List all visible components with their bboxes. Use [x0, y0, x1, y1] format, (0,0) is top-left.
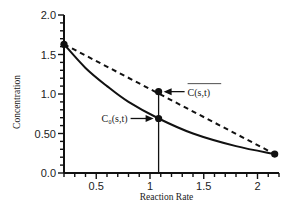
plot-series [60, 41, 278, 173]
y-tick-label: 1.5 [41, 49, 56, 61]
arrow-head-icon [164, 88, 172, 95]
chart: 0.00.501.01.52.00.511.52Reaction RateCon… [0, 0, 295, 209]
y-tick-label: 0.50 [35, 128, 56, 140]
y-tick-label: 2.0 [41, 9, 56, 21]
data-point [155, 88, 162, 95]
x-axis-title: Reaction Rate [140, 192, 194, 202]
y-tick-label: 0.0 [41, 167, 56, 179]
x-tick-label: 0.5 [89, 180, 104, 192]
axes: 0.00.501.01.52.00.511.52Reaction RateCon… [12, 9, 279, 202]
y-axis-title: Concentration [12, 75, 22, 129]
label-c-bar: C(s,t) [188, 87, 211, 99]
x-tick-label: 1 [147, 180, 153, 192]
data-point [60, 41, 67, 48]
data-point [155, 115, 162, 122]
dashed-line-average [64, 44, 275, 154]
label-c0: C₀(s,t) [102, 113, 128, 125]
data-point [271, 150, 278, 157]
y-tick-label: 1.0 [41, 88, 56, 100]
x-tick-label: 2 [254, 180, 260, 192]
x-tick-label: 1.5 [196, 180, 211, 192]
